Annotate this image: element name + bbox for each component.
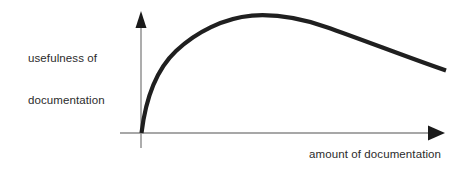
y-axis-arrowhead: [136, 11, 147, 28]
y-axis-label-line-2: documentation: [28, 93, 105, 107]
y-axis-label-line-1: usefulness of: [28, 51, 105, 65]
usefulness-curve: [142, 15, 447, 133]
x-axis-label: amount of documentation: [309, 147, 441, 161]
y-axis-label: usefulness of documentation: [28, 23, 105, 135]
diagram-canvas: usefulness of documentation amount of do…: [0, 0, 469, 170]
x-axis-arrowhead: [428, 126, 445, 141]
